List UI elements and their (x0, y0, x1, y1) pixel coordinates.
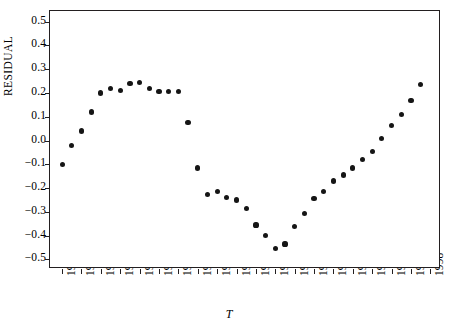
x-axis-tick (81, 269, 82, 274)
data-point (341, 172, 346, 177)
data-point (273, 246, 278, 251)
data-point (147, 86, 152, 91)
x-axis-tick (392, 269, 393, 274)
data-point (331, 178, 336, 183)
y-axis-tick-label: 0.5 (0, 15, 46, 27)
data-point (185, 120, 190, 125)
x-axis-tick (295, 269, 296, 274)
data-point (137, 80, 142, 85)
x-axis-tick (411, 269, 412, 274)
x-axis-tick (198, 269, 199, 274)
x-axis-tick (314, 269, 315, 274)
data-point (60, 162, 65, 167)
x-axis-tick (101, 269, 102, 274)
x-axis-tick (217, 269, 218, 274)
data-point (224, 195, 229, 200)
data-point (399, 112, 404, 117)
y-axis-tick-label: 0.1 (0, 110, 46, 122)
data-point (408, 98, 413, 103)
data-point (282, 241, 287, 246)
data-point (370, 149, 375, 154)
data-point (108, 86, 113, 91)
data-point (234, 197, 239, 202)
data-point (244, 206, 249, 211)
data-point (321, 189, 326, 194)
data-point (118, 88, 123, 93)
data-point (253, 222, 258, 227)
x-axis-tick (62, 269, 63, 274)
x-axis-tick (372, 269, 373, 274)
data-point (379, 136, 384, 141)
data-point (69, 143, 74, 148)
data-point (89, 109, 94, 114)
y-axis-tick-label: 0.2 (0, 86, 46, 98)
x-axis-tick (256, 269, 257, 274)
data-point (98, 90, 103, 95)
data-point (418, 82, 423, 87)
data-point (311, 196, 316, 201)
x-axis-tick (159, 269, 160, 274)
x-axis-tick (140, 269, 141, 274)
data-point (127, 81, 132, 86)
data-point (263, 233, 268, 238)
data-point (292, 224, 297, 229)
data-point (302, 211, 307, 216)
y-axis-tick-label: 0.3 (0, 62, 46, 74)
x-axis-title: T (0, 307, 452, 322)
x-axis-title-text: T (220, 307, 233, 321)
y-axis-tick-label: −0.4 (0, 229, 46, 241)
data-point (156, 89, 161, 94)
data-point (360, 157, 365, 162)
y-axis-tick-label: 0.0 (0, 134, 46, 146)
y-axis-tick-label: −0.5 (0, 252, 46, 264)
y-axis-tick-label: 0.4 (0, 38, 46, 50)
data-point (166, 89, 171, 94)
x-axis-tick (353, 269, 354, 274)
x-axis-tick (120, 269, 121, 274)
data-point (389, 123, 394, 128)
data-points-layer (50, 11, 439, 267)
x-axis-tick (237, 269, 238, 274)
data-point (176, 89, 181, 94)
plot-frame (49, 10, 440, 268)
data-point (350, 165, 355, 170)
data-point (79, 128, 84, 133)
residual-scatter-figure: RESIDUAL 0.50.40.30.20.10.0−0.1−0.2−0.3−… (0, 0, 452, 325)
y-axis-tick-label: −0.3 (0, 205, 46, 217)
x-axis-tick (178, 269, 179, 274)
data-point (195, 165, 200, 170)
x-axis-tick (430, 269, 431, 274)
y-axis-tick-label: −0.2 (0, 181, 46, 193)
y-axis-tick-label: −0.1 (0, 157, 46, 169)
x-axis-tick (333, 269, 334, 274)
data-point (215, 189, 220, 194)
data-point (205, 192, 210, 197)
x-axis-tick (275, 269, 276, 274)
